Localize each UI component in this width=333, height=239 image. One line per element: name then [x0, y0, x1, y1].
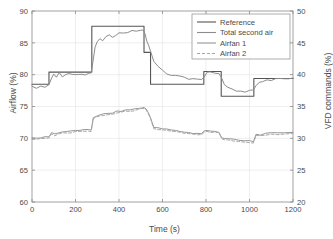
svg-text:25: 25 [297, 166, 305, 175]
y-axis-label-left: Airflow (%) [8, 58, 18, 128]
svg-text:1000: 1000 [241, 205, 258, 214]
x-axis-label: Time (s) [0, 224, 329, 234]
svg-text:400: 400 [113, 205, 126, 214]
chart-legend: ReferenceTotal second airAirfan 1Airfan … [192, 14, 290, 59]
svg-text:35: 35 [297, 102, 305, 111]
svg-text:90: 90 [20, 7, 28, 16]
svg-text:60: 60 [20, 198, 28, 207]
svg-text:30: 30 [297, 134, 305, 143]
y-axis-label-right: VFD commands (%) [323, 45, 333, 137]
svg-text:80: 80 [20, 70, 28, 79]
svg-text:85: 85 [20, 39, 28, 48]
svg-text:70: 70 [20, 134, 28, 143]
svg-text:20: 20 [297, 198, 305, 207]
svg-text:800: 800 [200, 205, 213, 214]
legend-label-3: Airfan 1 [220, 39, 246, 48]
svg-text:40: 40 [297, 70, 305, 79]
svg-text:65: 65 [20, 166, 28, 175]
legend-label-2: Total second air [220, 28, 274, 37]
legend-label-1: Reference [220, 18, 255, 27]
svg-text:50: 50 [297, 7, 305, 16]
svg-text:200: 200 [69, 205, 82, 214]
svg-text:75: 75 [20, 102, 28, 111]
svg-text:0: 0 [30, 205, 34, 214]
svg-text:600: 600 [156, 205, 169, 214]
legend-label-4: Airfan 2 [220, 49, 246, 58]
svg-text:45: 45 [297, 39, 305, 48]
